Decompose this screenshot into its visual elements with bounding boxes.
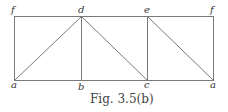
figure-caption: Fig. 3.5(b) — [90, 92, 154, 106]
vertex-label-d: d — [78, 4, 84, 15]
vertex-label-f-left: f — [10, 4, 17, 15]
vertex-label-a-right: a — [210, 79, 216, 90]
edge-a-d — [15, 17, 82, 81]
edges — [15, 17, 214, 81]
edge-d-c — [82, 17, 148, 81]
vertex-label-c: c — [144, 79, 150, 90]
vertex-label-b: b — [78, 81, 84, 92]
diagram-canvas: f d e f a b c a Fig. 3.5(b) — [0, 0, 228, 112]
vertex-label-e: e — [144, 4, 150, 15]
vertex-label-f-right: f — [209, 4, 216, 15]
edge-e-a — [148, 17, 214, 81]
vertex-label-a-left: a — [11, 79, 17, 90]
